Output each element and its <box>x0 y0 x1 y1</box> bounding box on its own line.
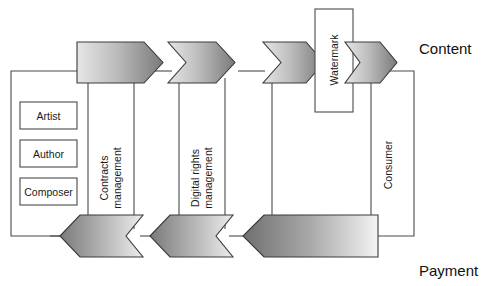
top-arrow-1 <box>77 42 163 83</box>
content-label: Content <box>419 40 472 57</box>
diagram-canvas: Artist Author Composer Contracts managem… <box>0 0 486 286</box>
bottom-arrow-3 <box>243 215 378 257</box>
bottom-arrow-1 <box>60 215 143 257</box>
top-arrow-2 <box>168 42 235 83</box>
creator-label-composer: Composer <box>24 186 73 198</box>
creator-label-author: Author <box>33 148 64 160</box>
payment-label: Payment <box>419 262 479 279</box>
drm-label-line1: Digital rights <box>189 149 201 207</box>
drm-label-line2: management <box>202 147 214 208</box>
watermark-label: Watermark <box>328 34 340 86</box>
contracts-label-line2: management <box>111 147 123 208</box>
flow-diagram: Artist Author Composer Contracts managem… <box>0 0 486 286</box>
bottom-arrow-2 <box>150 215 233 257</box>
contracts-label-line1: Contracts <box>98 156 110 201</box>
creator-label-artist: Artist <box>37 110 61 122</box>
consumer-label: Consumer <box>382 140 394 189</box>
